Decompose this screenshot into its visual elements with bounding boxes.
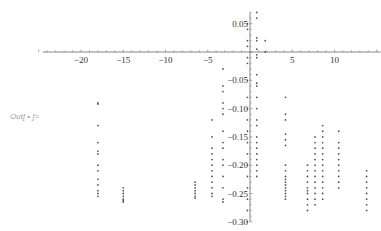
data-point: [307, 170, 309, 172]
data-point: [222, 142, 224, 144]
data-point: [247, 79, 249, 81]
data-point: [122, 187, 124, 189]
data-point: [97, 193, 99, 195]
x-tick-label: −20: [74, 55, 89, 65]
data-point: [322, 181, 324, 183]
data-point: [307, 181, 309, 183]
x-tick-label: 10: [330, 55, 340, 65]
data-point: [338, 164, 340, 166]
y-tick-label: −0.20: [227, 160, 248, 170]
data-point: [307, 198, 309, 200]
data-point: [338, 170, 340, 172]
data-point: [256, 54, 258, 56]
data-point: [211, 147, 213, 149]
data-point: [338, 176, 340, 178]
data-point: [256, 108, 258, 110]
data-point: [211, 153, 213, 155]
x-tick-label: −15: [116, 55, 131, 65]
data-point: [285, 178, 287, 180]
data-point: [322, 159, 324, 161]
data-point: [314, 187, 316, 189]
data-point: [222, 108, 224, 110]
data-point: [256, 170, 258, 172]
y-tick-label: 0.05: [232, 19, 248, 29]
data-point: [247, 153, 249, 155]
data-point: [307, 193, 309, 195]
data-point: [194, 190, 196, 192]
data-point: [97, 164, 99, 166]
data-point: [97, 153, 99, 155]
data-point: [256, 142, 258, 144]
data-point: [222, 198, 224, 200]
data-point: [285, 187, 287, 189]
data-point: [122, 190, 124, 192]
data-point: [322, 153, 324, 155]
data-point: [247, 96, 249, 98]
data-point: [247, 187, 249, 189]
data-point: [322, 193, 324, 195]
data-point: [222, 147, 224, 149]
data-point: [285, 195, 287, 197]
data-point: [247, 45, 249, 47]
data-point: [97, 184, 99, 186]
data-point: [211, 195, 213, 197]
data-point: [307, 204, 309, 206]
data-point: [222, 68, 224, 70]
data-point: [256, 153, 258, 155]
data-point: [307, 176, 309, 178]
data-point: [256, 40, 258, 42]
data-point: [285, 184, 287, 186]
data-point: [211, 119, 213, 121]
data-point: [247, 28, 249, 30]
data-point: [307, 164, 309, 166]
data-point: [314, 164, 316, 166]
data-point: [285, 139, 287, 141]
data-point: [211, 164, 213, 166]
data-point: [256, 147, 258, 149]
data-point: [285, 144, 287, 146]
data-point: [285, 198, 287, 200]
data-point: [97, 178, 99, 180]
data-point: [211, 170, 213, 172]
data-point: [97, 142, 99, 144]
data-point: [285, 181, 287, 183]
data-point: [247, 130, 249, 132]
x-tick-label: −10: [158, 55, 173, 65]
data-point: [222, 164, 224, 166]
scatter-plot: −20−15−10−55100.05−0.05−0.10−0.15−0.20−0…: [0, 0, 381, 231]
data-point: [285, 193, 287, 195]
data-point: [366, 170, 368, 172]
data-point: [338, 130, 340, 132]
data-point: [256, 176, 258, 178]
data-point: [247, 62, 249, 64]
data-point: [222, 91, 224, 93]
data-point: [122, 195, 124, 197]
data-point: [97, 190, 99, 192]
data-point: [314, 204, 316, 206]
data-point: [256, 125, 258, 127]
data-point: [314, 193, 316, 195]
data-point: [256, 136, 258, 138]
data-point: [194, 184, 196, 186]
data-point: [314, 198, 316, 200]
data-point: [211, 159, 213, 161]
data-point: [322, 142, 324, 144]
data-point: [256, 164, 258, 166]
data-point: [256, 85, 258, 87]
data-point: [247, 40, 249, 42]
data-point: [247, 142, 249, 144]
data-point: [194, 193, 196, 195]
data-point: [256, 159, 258, 161]
data-point: [222, 102, 224, 104]
data-point: [256, 82, 258, 84]
data-point: [338, 187, 340, 189]
data-point: [285, 170, 287, 172]
data-point: [285, 190, 287, 192]
data-point: [314, 181, 316, 183]
data-point: [247, 23, 249, 25]
data-point: [314, 142, 316, 144]
data-point: [314, 170, 316, 172]
data-point: [222, 159, 224, 161]
data-point: [338, 181, 340, 183]
data-point: [222, 201, 224, 203]
